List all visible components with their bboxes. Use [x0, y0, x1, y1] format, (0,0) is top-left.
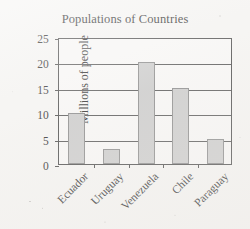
x-axis-tick-mark	[94, 164, 95, 168]
x-axis-tick-mark	[163, 164, 164, 168]
x-axis-tick-label-paraguay: Paraguay	[191, 170, 230, 209]
x-axis-tick-label-chile: Chile	[169, 170, 195, 196]
y-axis-tick-label: 25	[37, 33, 49, 45]
y-axis-tick-label: 10	[37, 109, 49, 121]
bar-uruguay	[103, 149, 120, 164]
x-axis-tick-mark	[198, 164, 199, 168]
chart-title: Populations of Countries	[0, 12, 250, 27]
y-axis-tick-mark	[55, 141, 59, 142]
y-axis-tick-label: 20	[37, 58, 49, 70]
plot-area: Millions of people 0510152025 EcuadorUru…	[58, 38, 232, 165]
y-axis-tick-mark	[55, 166, 59, 167]
x-axis-tick-label-ecuador: Ecuador	[55, 170, 91, 206]
x-axis-tick-mark	[129, 164, 130, 168]
y-axis-tick-mark	[55, 115, 59, 116]
y-axis-tick-label: 0	[43, 160, 49, 172]
y-axis-tick-label: 5	[43, 135, 49, 147]
bar-venezuela	[138, 62, 155, 164]
y-axis-tick-mark	[55, 90, 59, 91]
y-axis-tick-mark	[55, 64, 59, 65]
y-axis-tick-label: 15	[37, 84, 49, 96]
x-axis-tick-label-venezuela: Venezuela	[119, 170, 161, 212]
bar-chile	[172, 88, 189, 164]
bar-chart-figure: Populations of Countries Millions of peo…	[0, 0, 250, 229]
bar-paraguay	[207, 139, 224, 164]
bar-ecuador	[68, 113, 85, 164]
y-axis-tick-mark	[55, 39, 59, 40]
